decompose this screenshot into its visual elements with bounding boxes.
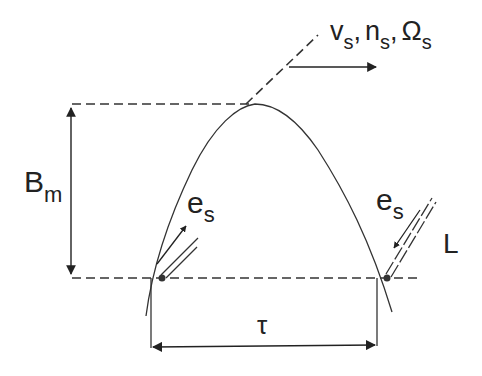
flux-density-curve <box>146 104 392 316</box>
flux-wave-diagram: Bm vs,ns,Ωs es es L τ <box>0 0 482 376</box>
left-conductor <box>157 226 198 282</box>
conductor-length-label: L <box>443 228 459 259</box>
left-emf-label: es <box>187 186 215 227</box>
speed-label: vs,ns,Ωs <box>330 16 432 53</box>
right-emf-label: es <box>376 183 404 224</box>
pole-pitch-label: τ <box>257 310 268 340</box>
amplitude-label: Bm <box>24 165 62 207</box>
pole-pitch-arrow <box>153 345 375 347</box>
travel-direction-dashed-line <box>246 35 318 104</box>
